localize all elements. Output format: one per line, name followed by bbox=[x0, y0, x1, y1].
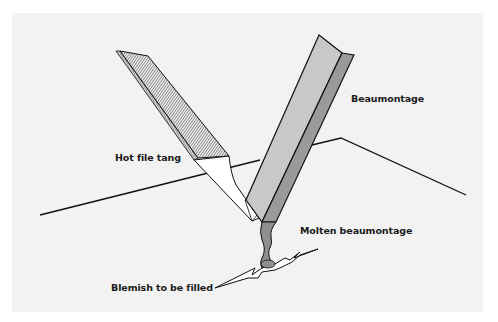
label-molten-beaumontage: Molten beaumontage bbox=[300, 225, 412, 236]
label-beaumontage: Beaumontage bbox=[351, 93, 424, 104]
beaumontage-diagram bbox=[0, 0, 498, 322]
label-hot-file-tang: Hot file tang bbox=[115, 152, 181, 163]
molten-pool bbox=[261, 260, 275, 268]
file-face bbox=[120, 51, 229, 158]
label-blemish: Blemish to be filled bbox=[111, 282, 213, 293]
workpiece-surface-line-right bbox=[312, 138, 466, 195]
beaumontage-stick-face bbox=[246, 35, 342, 222]
